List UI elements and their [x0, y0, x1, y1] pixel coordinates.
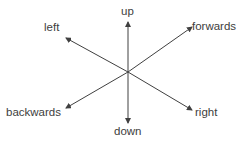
- label-backwards: backwards: [6, 107, 61, 119]
- label-up: up: [121, 6, 134, 18]
- label-right: right: [195, 107, 217, 119]
- direction-diagram: up down left right forwards backwards: [0, 0, 249, 144]
- right-arrow: [128, 72, 192, 110]
- backwards-arrow: [66, 72, 128, 108]
- label-forwards: forwards: [192, 21, 236, 33]
- label-down: down: [114, 126, 142, 138]
- left-arrow: [66, 38, 128, 72]
- label-left: left: [44, 22, 59, 34]
- forwards-arrow: [128, 27, 192, 72]
